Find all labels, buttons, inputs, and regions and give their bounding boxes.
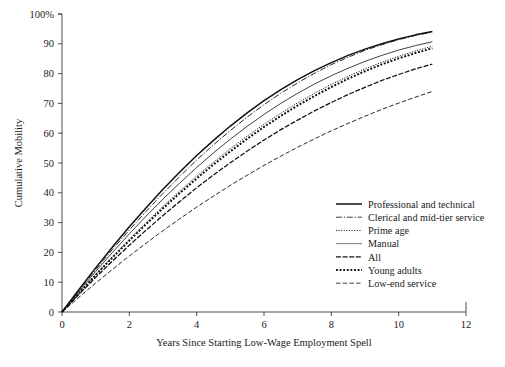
- legend-item-label: Prime age: [368, 225, 409, 236]
- legend-item-label: Professional and technical: [368, 199, 475, 210]
- legend-item-label: Manual: [368, 238, 399, 249]
- x-tick-label: 0: [59, 319, 64, 330]
- chart-legend: Professional and technicalClerical and m…: [336, 199, 485, 289]
- legend-item[interactable]: Young adults: [336, 265, 422, 276]
- x-tick-label: 6: [261, 319, 266, 330]
- legend-item-label: Young adults: [368, 265, 422, 276]
- legend-item[interactable]: Professional and technical: [336, 199, 475, 210]
- y-tick-label: 20: [44, 247, 55, 258]
- y-tick-label: 10: [44, 277, 55, 288]
- y-tick-label: 40: [44, 187, 55, 198]
- y-tick-label: 50: [44, 158, 55, 169]
- x-tick-label: 8: [329, 319, 334, 330]
- legend-item[interactable]: Low-end service: [336, 278, 437, 289]
- y-tick-label: 60: [44, 128, 55, 139]
- chart-container: 0102030405060708090100%024681012Years Si…: [0, 0, 505, 367]
- legend-item-label: Clerical and mid-tier service: [368, 212, 485, 223]
- x-tick-label: 4: [194, 319, 200, 330]
- y-axis-title: Cumulative Mobility: [13, 118, 24, 207]
- legend-item[interactable]: Clerical and mid-tier service: [336, 212, 485, 223]
- x-axis-title: Years Since Starting Low-Wage Employment…: [156, 337, 371, 348]
- legend-item[interactable]: Manual: [336, 238, 399, 249]
- y-tick-label: 80: [44, 68, 55, 79]
- legend-item-label: All: [368, 252, 381, 263]
- y-tick-label: 30: [44, 217, 55, 228]
- x-tick-label: 10: [393, 319, 404, 330]
- line-chart: 0102030405060708090100%024681012Years Si…: [0, 0, 505, 367]
- legend-item[interactable]: Prime age: [336, 225, 409, 236]
- y-tick-label: 70: [44, 98, 55, 109]
- y-tick-label: 0: [49, 307, 54, 318]
- x-tick-label: 2: [127, 319, 132, 330]
- x-tick-label: 12: [461, 319, 472, 330]
- legend-item-label: Low-end service: [368, 278, 437, 289]
- y-tick-label: 100%: [30, 9, 55, 20]
- y-tick-label: 90: [44, 38, 55, 49]
- legend-item[interactable]: All: [336, 252, 381, 263]
